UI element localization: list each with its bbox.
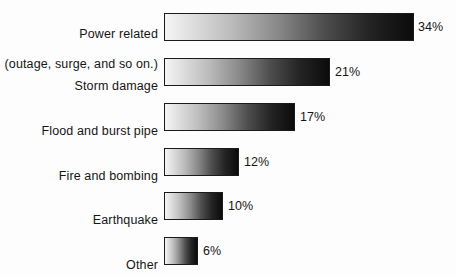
bar-chart: Power related (outage, surge, and so on.… xyxy=(0,0,456,276)
bar-container xyxy=(164,192,223,220)
bar-storm-damage xyxy=(164,58,330,86)
bar-value-label: 17% xyxy=(300,110,325,124)
bar-value-label: 12% xyxy=(244,155,269,169)
bar-value-label: 21% xyxy=(335,65,360,79)
bar-container xyxy=(164,58,330,86)
category-label-line1: Power related xyxy=(79,27,158,41)
bar-container xyxy=(164,148,239,176)
category-label-line1: Other xyxy=(126,258,158,272)
bar-earthquake xyxy=(164,192,223,220)
bar-value-label: 6% xyxy=(203,244,221,258)
bar-fire-and-bombing xyxy=(164,148,239,176)
category-label-line1: Earthquake xyxy=(93,213,158,227)
category-label: Other xyxy=(105,243,158,276)
bar-flood-and-burst-pipe xyxy=(164,103,295,131)
category-label-line1: Flood and burst pipe xyxy=(42,124,158,138)
bar-container xyxy=(164,103,295,131)
bar-container xyxy=(164,237,198,265)
bar-row: Power related (outage, surge, and so on.… xyxy=(0,13,456,41)
bar-row: Storm damage 21% xyxy=(0,58,456,86)
bar-row: Flood and burst pipe 17% xyxy=(0,103,456,131)
bar-power-related xyxy=(164,13,414,41)
bar-other xyxy=(164,237,198,265)
bar-row: Earthquake 10% xyxy=(0,192,456,220)
bar-value-label: 34% xyxy=(418,20,443,34)
category-label-line1: Storm damage xyxy=(75,79,158,93)
bar-row: Other 6% xyxy=(0,237,456,265)
bar-container xyxy=(164,13,414,41)
bar-row: Fire and bombing 12% xyxy=(0,148,456,176)
bar-value-label: 10% xyxy=(228,199,253,213)
category-label-line1: Fire and bombing xyxy=(59,169,158,183)
